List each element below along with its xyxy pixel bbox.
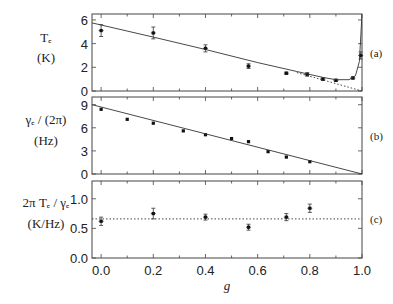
y-axis-label: (K/Hz) [28,216,65,231]
panel-c-tag: (c) [370,213,383,226]
data-point [230,137,233,140]
panel-a-tag: (a) [370,47,383,60]
panel-a: 0246Tₑ(K) [37,13,363,99]
x-tick-label: 0.2 [144,263,162,278]
y-axis-label: 2π Tₑ / γₑ [23,195,70,210]
fit-line [92,14,362,80]
x-axis-label: g [224,278,231,293]
data-point [285,155,288,158]
data-point [247,65,250,68]
data-point [204,216,207,219]
data-point [152,122,155,125]
data-point [285,216,288,219]
data-point [100,220,103,223]
data-point [247,140,250,143]
y-tick-label: 9 [81,98,88,113]
y-tick-label: 0.5 [70,221,88,236]
data-point [308,207,311,210]
data-point [247,226,250,229]
plot-frame [92,97,362,174]
y-axis-label: Tₑ [40,30,52,45]
panel-b-tag: (b) [370,130,383,143]
panel-b: 0369γₑ / (2π)(Hz) [25,97,362,182]
x-tick-label: 0.6 [249,263,267,278]
y-tick-label: 6 [81,121,88,136]
data-point [126,118,129,121]
fit-line [92,105,362,174]
x-tick-label: 0.8 [301,263,319,278]
figure: 0246Tₑ(K)0369γₑ / (2π)(Hz)0.00.51.00.00.… [0,0,393,304]
y-tick-label: 1.0 [70,192,88,207]
y-tick-label: 6 [81,13,88,28]
y-tick-label: 3 [81,144,88,159]
y-tick-label: 4 [81,37,88,52]
x-tick-label: 0.0 [92,263,110,278]
y-axis-label: (Hz) [34,133,58,148]
panel-c: 0.00.51.00.00.20.40.60.81.02π Tₑ / γₑ(K/… [23,181,371,278]
data-point [182,129,185,132]
y-tick-label: 0.0 [70,251,88,266]
x-tick-label: 0.4 [196,263,214,278]
y-tick-label: 0 [81,167,88,182]
data-point [100,29,103,32]
x-tick-label: 1.0 [353,263,371,278]
y-axis-label: (K) [37,50,55,65]
y-tick-label: 2 [81,60,88,75]
plot-frame [92,181,362,258]
y-axis-label: γₑ / (2π) [25,112,67,127]
data-point [152,212,155,215]
data-point [100,108,103,111]
data-point [152,31,155,34]
data-point [285,72,288,75]
